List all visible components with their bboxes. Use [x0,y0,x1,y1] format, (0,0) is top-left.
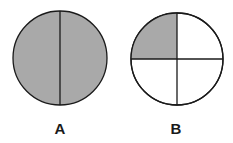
circle-a [13,11,107,105]
fraction-circles-diagram [0,0,233,143]
label-a: A [50,120,70,137]
label-b: B [166,120,186,137]
circle-b [131,13,223,105]
